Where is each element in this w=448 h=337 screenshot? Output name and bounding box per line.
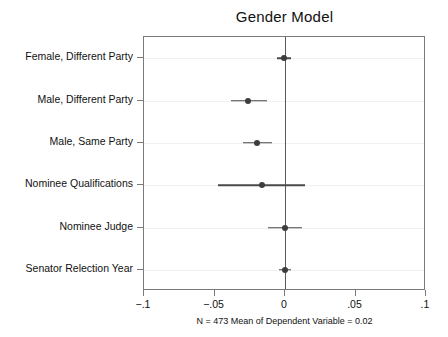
- x-axis-tick-label: .05: [347, 298, 362, 310]
- point-estimate-marker: [282, 267, 288, 273]
- point-estimate-marker: [254, 140, 260, 146]
- zero-reference-line: [285, 37, 286, 289]
- coefficient-plot-figure: Gender Model Female, Different PartyMale…: [0, 0, 448, 337]
- y-axis-tick: [137, 57, 143, 58]
- point-estimate-marker: [281, 55, 287, 61]
- point-estimate-marker: [259, 182, 265, 188]
- gridline: [144, 143, 424, 144]
- y-axis-tick-label: Female, Different Party: [25, 51, 133, 63]
- y-axis-tick-label: Nominee Qualifications: [25, 178, 133, 190]
- x-axis-tick-label: −.05: [203, 298, 224, 310]
- y-axis-tick-label: Male, Same Party: [50, 136, 133, 148]
- x-axis-tick-label: −.1: [136, 298, 151, 310]
- y-axis-tick: [137, 227, 143, 228]
- y-axis-tick-label: Male, Different Party: [37, 94, 133, 106]
- point-estimate-marker: [245, 98, 251, 104]
- y-axis-tick-label: Senator Relection Year: [26, 263, 133, 275]
- y-axis-tick-label: Nominee Judge: [59, 221, 133, 233]
- plot-area: [143, 36, 425, 290]
- y-axis-tick: [137, 269, 143, 270]
- y-axis-tick: [137, 142, 143, 143]
- x-axis-tick-label: .1: [421, 298, 430, 310]
- x-axis-tick: [284, 290, 285, 296]
- x-axis-tick: [214, 290, 215, 296]
- x-axis-tick: [355, 290, 356, 296]
- plot-inner: [144, 37, 424, 289]
- y-axis-tick: [137, 184, 143, 185]
- x-axis-tick: [425, 290, 426, 296]
- point-estimate-marker: [282, 225, 288, 231]
- x-axis-tick-label: 0: [281, 298, 287, 310]
- y-axis-tick: [137, 100, 143, 101]
- chart-footnote: N = 473 Mean of Dependent Variable = 0.0…: [143, 316, 426, 326]
- gridline: [144, 101, 424, 102]
- chart-title: Gender Model: [143, 8, 426, 25]
- x-axis-tick: [143, 290, 144, 296]
